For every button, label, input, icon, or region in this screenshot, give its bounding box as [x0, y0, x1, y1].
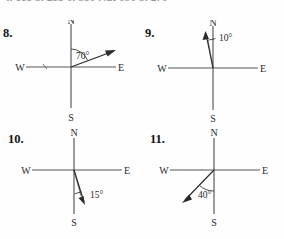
bearing-arrowhead — [203, 31, 210, 40]
bearing-arrowhead — [79, 196, 86, 205]
compass-diagram-8: N E S W 70° — [0, 20, 142, 125]
cardinal-north: N — [210, 127, 217, 138]
angle-label: 70° — [76, 51, 90, 61]
angle-label: 10° — [219, 33, 233, 43]
angle-label: 15° — [90, 190, 104, 200]
cardinal-east: E — [260, 63, 266, 74]
cardinal-west: W — [157, 63, 167, 74]
compass-diagram-10: N E S W 15° — [0, 126, 142, 231]
cardinal-west: W — [159, 165, 169, 176]
compass-diagram-9: N E S W 10° — [142, 20, 284, 125]
bearing-arrowhead — [182, 195, 192, 204]
cardinal-north: N — [70, 127, 77, 138]
cardinal-south: S — [68, 112, 74, 123]
cardinal-west: W — [21, 165, 31, 176]
angle-arc — [209, 39, 216, 41]
cardinal-west: W — [15, 62, 25, 73]
worksheet-page: 4. 115 5. 255 6. 350 Nat 090 8. 270 8. N — [0, 0, 284, 239]
cardinal-east: E — [124, 165, 130, 176]
cardinal-east: E — [118, 62, 124, 73]
problem-11: 11. N E S W 40° — [142, 126, 284, 231]
answer-key-strip: 4. 115 5. 255 6. 350 Nat 090 8. 270 — [0, 0, 284, 11]
answer-key-text: 4. 115 5. 255 6. 350 Nat 090 8. 270 — [4, 0, 168, 3]
bearing-ray-secondary — [208, 40, 213, 68]
bearing-arrowhead — [105, 50, 116, 57]
problem-8: 8. N E S W 70° — [0, 20, 142, 125]
cardinal-south: S — [210, 113, 216, 124]
problem-9: 9. N E S W 10° — [142, 20, 284, 125]
problem-10: 10. N E S W 15° — [0, 126, 142, 231]
cardinal-north: N — [209, 20, 216, 28]
compass-diagram-11: N E S W 40° — [142, 126, 284, 231]
angle-label: 40° — [198, 190, 212, 200]
cardinal-south: S — [211, 217, 217, 228]
cardinal-south: S — [71, 217, 77, 228]
cardinal-north: N — [67, 20, 74, 26]
cardinal-east: E — [262, 165, 268, 176]
